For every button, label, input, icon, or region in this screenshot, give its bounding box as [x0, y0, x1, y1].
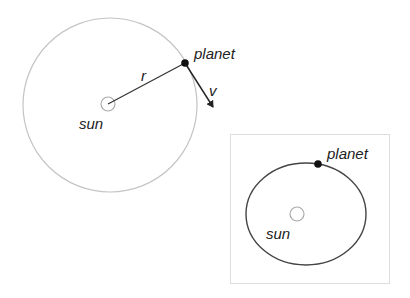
planet-label-ellipse: planet	[326, 145, 369, 162]
radius-line	[108, 63, 185, 104]
planet-label: planet	[193, 45, 236, 62]
planet-marker-ellipse	[314, 160, 322, 168]
velocity-label: v	[209, 82, 218, 99]
elliptical-orbit-panel: planet sun	[231, 135, 390, 284]
sun-label: sun	[79, 115, 103, 132]
planet-marker	[181, 59, 189, 67]
radius-label: r	[141, 67, 147, 84]
sun-label-ellipse: sun	[266, 225, 290, 242]
orbit-diagram: r v planet sun planet sun	[0, 0, 410, 298]
circular-orbit-path	[23, 18, 197, 192]
circular-orbit-panel: r v planet sun	[23, 18, 236, 192]
